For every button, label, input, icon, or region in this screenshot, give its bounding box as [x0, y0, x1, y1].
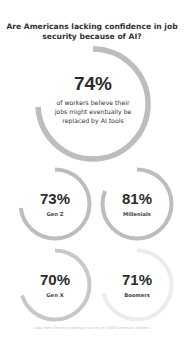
gen-z-value: 73%: [40, 191, 70, 207]
main-stat-value: 74%: [74, 74, 112, 94]
page-title: Are Americans lacking confidence in job …: [0, 22, 184, 41]
gen-x-ring: 70% Gen X: [18, 248, 92, 322]
gen-z-label: Gen Z: [46, 211, 63, 217]
main-stat-description: of workers believe their jobs might even…: [53, 98, 133, 125]
millenials-value: 81%: [122, 191, 152, 207]
source-footnote: Data from Checkr proprietary survey of 3…: [0, 326, 184, 330]
boomers-value: 71%: [122, 272, 152, 288]
boomers-ring: 71% Boomers: [100, 248, 174, 322]
gen-x-label: Gen X: [46, 292, 63, 298]
boomers-label: Boomers: [124, 292, 150, 298]
gen-x-value: 70%: [40, 272, 70, 288]
millenials-ring: 81% Millenials: [100, 167, 174, 241]
millenials-label: Millenials: [123, 211, 151, 217]
main-stat-ring: 74% of workers believe their jobs might …: [35, 46, 151, 162]
gen-z-ring: 73% Gen Z: [18, 167, 92, 241]
